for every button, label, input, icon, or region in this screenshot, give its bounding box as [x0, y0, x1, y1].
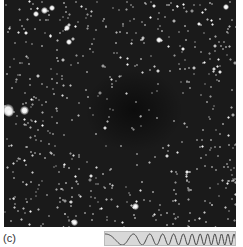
star [21, 62, 23, 64]
star [42, 223, 44, 225]
star [178, 31, 180, 33]
star [112, 7, 114, 9]
star [31, 154, 34, 157]
star [166, 212, 168, 214]
star [22, 207, 25, 210]
bright-star [4, 107, 14, 117]
star [141, 181, 143, 183]
star [95, 166, 98, 169]
star [194, 219, 196, 221]
star [30, 198, 32, 200]
star [204, 200, 206, 202]
star [31, 171, 34, 174]
star [218, 80, 220, 82]
star [162, 147, 164, 149]
star [214, 50, 216, 52]
star [206, 101, 208, 103]
star [67, 226, 71, 227]
star [35, 191, 37, 193]
star [77, 21, 79, 23]
star [154, 156, 156, 158]
star [130, 4, 132, 6]
star [221, 179, 224, 182]
star [59, 19, 61, 21]
star [48, 143, 50, 145]
star [5, 4, 7, 6]
star [28, 0, 31, 3]
star [52, 133, 54, 135]
star [141, 21, 143, 23]
star [104, 187, 106, 189]
star [45, 101, 47, 103]
bright-star [223, 4, 229, 10]
star [132, 6, 134, 8]
star [148, 161, 151, 164]
star [184, 68, 186, 70]
star [172, 9, 174, 11]
bright-star [64, 25, 70, 31]
star [113, 52, 115, 54]
star [196, 168, 198, 170]
star [56, 73, 58, 75]
star [156, 69, 160, 73]
star [202, 129, 204, 131]
star [174, 181, 177, 184]
star [13, 58, 15, 60]
star [159, 25, 161, 27]
star [185, 175, 188, 178]
star [13, 177, 15, 179]
star [54, 145, 56, 147]
star [210, 19, 213, 22]
star [24, 31, 28, 35]
star [174, 217, 177, 220]
star [231, 113, 235, 117]
star [194, 41, 196, 43]
star [25, 198, 27, 200]
star [109, 169, 111, 171]
star [65, 6, 67, 8]
star [209, 118, 211, 120]
star [68, 220, 70, 222]
star [14, 42, 16, 44]
star [235, 26, 236, 28]
star [95, 133, 97, 135]
star [23, 159, 26, 162]
bright-star [156, 37, 162, 43]
star [157, 83, 159, 85]
bright-star [71, 219, 78, 226]
star [187, 30, 189, 32]
star [115, 31, 118, 34]
star [56, 57, 58, 59]
star [75, 1, 77, 3]
star [53, 93, 55, 95]
star [167, 150, 169, 152]
star [70, 64, 72, 66]
bright-star [41, 7, 48, 14]
star [14, 203, 16, 205]
star [164, 16, 166, 18]
star [56, 122, 58, 124]
star [86, 161, 88, 163]
star-field-image [4, 0, 236, 227]
star [57, 60, 59, 62]
star [229, 159, 231, 161]
star [71, 187, 73, 189]
star [172, 223, 174, 225]
star [112, 109, 114, 111]
star [136, 164, 138, 166]
star [173, 189, 175, 191]
star [85, 89, 87, 91]
star [167, 45, 170, 48]
star [120, 75, 122, 77]
star [193, 73, 195, 75]
star [56, 206, 59, 209]
star [69, 84, 72, 87]
star [140, 125, 142, 127]
star [51, 116, 53, 118]
star [94, 197, 96, 199]
star [211, 23, 214, 26]
star [116, 205, 119, 208]
star [126, 63, 129, 66]
star [38, 184, 40, 186]
star [96, 1, 98, 3]
